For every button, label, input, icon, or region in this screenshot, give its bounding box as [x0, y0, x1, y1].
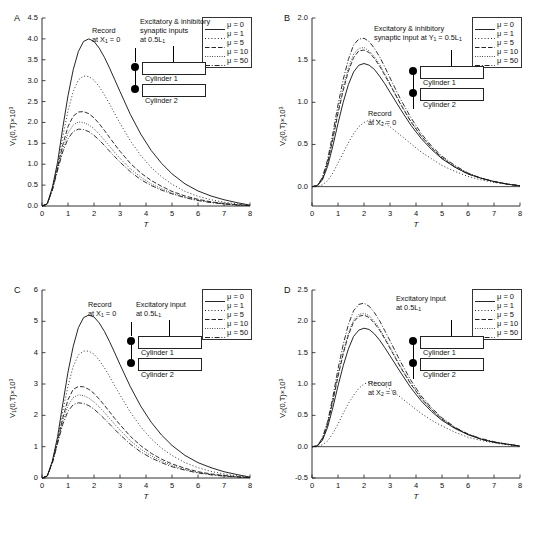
x-tick-label: 8: [510, 481, 530, 490]
panel-b: B 0123456780.00.51.01.52.0V2(0,T)×103Tμ …: [270, 0, 540, 272]
y-tick-label: 0.0: [282, 182, 308, 191]
y-tick-label: 4: [12, 348, 38, 357]
input-label-line3: at 0.5L1: [140, 35, 165, 46]
record-lead: [413, 365, 414, 379]
curve-10: [42, 395, 250, 478]
cylinder-2-label: Cylinder 2: [145, 96, 178, 105]
x-tick-label: 8: [240, 481, 260, 490]
x-axis-label: T: [312, 492, 520, 501]
panel-c: C 0123456780123456V1(0,T)×103Tμ = 0μ = 1…: [0, 272, 270, 544]
electrode-dot-1: [127, 337, 135, 345]
cylinder-1-label: Cylinder 1: [423, 348, 456, 357]
curve-10: [42, 122, 250, 206]
x-tick-label: 2: [84, 481, 104, 490]
legend-item-label: μ = 0: [497, 20, 514, 29]
electrode-dot-1: [409, 67, 417, 75]
cylinder-2-label: Cylinder 2: [423, 370, 456, 379]
x-tick-label: 5: [432, 209, 452, 218]
x-tick-label: 8: [510, 209, 530, 218]
y-tick-label: 1.5: [282, 348, 308, 357]
x-tick-label: 4: [136, 481, 156, 490]
x-tick-label: 7: [484, 481, 504, 490]
cylinder-schematic: Cylinder 1Cylinder 2Recordat X1 = 0Excit…: [96, 300, 246, 395]
record-label-line2: at X1 = 0: [88, 309, 116, 320]
x-tick-label: 0: [302, 209, 322, 218]
x-tick-label: 1: [328, 481, 348, 490]
input-label-line2: at 0.5L1: [396, 303, 421, 314]
y-tick-label: 1.0: [12, 159, 38, 168]
input-label-line2: synaptic input at Y1 = 0.5L1: [374, 33, 462, 44]
x-tick-label: 3: [110, 481, 130, 490]
input-lead: [451, 50, 452, 66]
record-label-line1: Record: [88, 300, 112, 309]
input-label-line2: at 0.5L1: [136, 309, 161, 320]
x-tick-label: 6: [458, 209, 478, 218]
x-tick-label: 4: [406, 481, 426, 490]
y-tick-label: -0.5: [282, 473, 308, 482]
x-axis-label: T: [42, 492, 250, 501]
curve-5: [42, 387, 250, 478]
record-label-line1: Record: [368, 379, 392, 388]
panel-a: A 0123456780.00.51.01.52.02.53.03.54.04.…: [0, 0, 270, 272]
cylinder-1-label: Cylinder 1: [423, 78, 456, 87]
x-tick-label: 0: [32, 209, 52, 218]
record-lead: [413, 95, 414, 109]
curve-5: [42, 112, 250, 206]
y-axis-label: V1(0,T)×103: [8, 107, 17, 146]
cylinder-1-label: Cylinder 1: [145, 74, 178, 83]
x-tick-label: 7: [484, 209, 504, 218]
input-label-line1: Excitatory & inhibitory: [140, 17, 210, 26]
y-tick-label: 3.0: [12, 76, 38, 85]
record-lead: [131, 322, 132, 336]
x-tick-label: 4: [136, 209, 156, 218]
x-tick-label: 2: [354, 481, 374, 490]
input-lead: [169, 320, 170, 336]
y-tick-label: 0.5: [12, 180, 38, 189]
y-tick-label: 0: [12, 473, 38, 482]
cylinder-2-label: Cylinder 2: [423, 100, 456, 109]
panel-c-plot: 0123456780123456V1(0,T)×103Tμ = 0μ = 1μ …: [0, 272, 270, 544]
input-label-line1: Excitatory & inhibitory: [374, 24, 444, 33]
x-tick-label: 5: [162, 481, 182, 490]
y-tick-label: 2.5: [12, 97, 38, 106]
y-tick-label: 4.0: [12, 34, 38, 43]
y-tick-label: 1.5: [282, 55, 308, 64]
y-tick-label: 2.0: [282, 316, 308, 325]
y-tick-label: 2.0: [282, 13, 308, 22]
input-label-line1: Excitatory input: [396, 294, 446, 303]
x-tick-label: 6: [188, 481, 208, 490]
x-tick-label: 0: [302, 481, 322, 490]
panel-d-plot: 012345678-0.50.00.51.01.52.02.5V2(0,T)×1…: [270, 272, 540, 544]
x-tick-label: 1: [58, 209, 78, 218]
input-label-line1: Excitatory input: [136, 300, 186, 309]
cylinder-1-label: Cylinder 1: [141, 348, 174, 357]
record-label-line1: Record: [368, 109, 392, 118]
input-lead: [173, 46, 174, 62]
y-tick-label: 3.5: [12, 55, 38, 64]
x-axis-label: T: [42, 220, 250, 229]
y-axis-label: V2(0,T)×103: [278, 379, 287, 418]
curve-50: [42, 129, 250, 206]
y-axis-label: V2(0,T)×103: [278, 107, 287, 146]
y-tick-label: 4.5: [12, 13, 38, 22]
cylinder-schematic: Cylinder 1Cylinder 2Excitatory inputat 0…: [378, 300, 528, 395]
input-lead: [451, 320, 452, 336]
input-label-line2: synaptic inputs: [140, 26, 188, 35]
y-tick-label: 6: [12, 285, 38, 294]
y-tick-label: 5: [12, 316, 38, 325]
x-tick-label: 2: [354, 209, 374, 218]
record-label-line2: at X2 = 0: [368, 388, 396, 399]
x-tick-label: 5: [162, 209, 182, 218]
x-tick-label: 4: [406, 209, 426, 218]
cylinder-schematic: Cylinder 1Cylinder 2Excitatory & inhibit…: [378, 30, 528, 125]
y-tick-label: 0.0: [12, 201, 38, 210]
x-tick-label: 1: [58, 481, 78, 490]
panel-a-plot: 0123456780.00.51.01.52.02.53.03.54.04.5V…: [0, 0, 270, 272]
record-lead: [135, 48, 136, 62]
y-tick-label: 1: [12, 442, 38, 451]
x-tick-label: 3: [110, 209, 130, 218]
x-tick-label: 3: [380, 481, 400, 490]
legend-item[interactable]: μ = 0: [475, 20, 518, 29]
cylinder-schematic: Cylinder 1Cylinder 2Recordat X1 = 0Excit…: [100, 26, 250, 121]
record-label-line2: at X2 = 0: [368, 118, 396, 129]
